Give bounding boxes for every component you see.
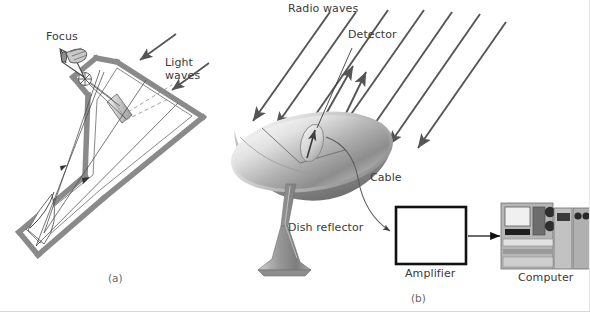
amplifier-box	[396, 207, 466, 264]
label-light-waves-line1: Light	[165, 57, 193, 70]
label-computer: Computer	[518, 272, 573, 285]
caption-b: (b)	[411, 292, 426, 304]
telescope-figure: Focus Light waves (a) Radio waves Detect…	[0, 0, 590, 312]
label-dish-reflector: Dish reflector	[288, 222, 363, 235]
label-detector: Detector	[348, 29, 397, 42]
label-amplifier: Amplifier	[405, 268, 455, 281]
radio-telescope-group	[227, 10, 590, 276]
label-cable: Cable	[370, 172, 402, 185]
label-focus: Focus	[46, 31, 78, 44]
caption-a: (a)	[108, 272, 123, 284]
computer-unit	[501, 203, 590, 269]
label-light-waves-line2: waves	[165, 70, 200, 83]
figure-artwork	[0, 0, 590, 312]
label-radio-waves: Radio waves	[288, 3, 358, 16]
